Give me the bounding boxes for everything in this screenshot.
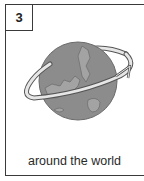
globe-with-orbit-arrow-icon: [20, 36, 140, 126]
card-number: 3: [15, 10, 22, 25]
card-number-badge: 3: [5, 4, 33, 31]
card-caption: around the world: [5, 154, 144, 168]
